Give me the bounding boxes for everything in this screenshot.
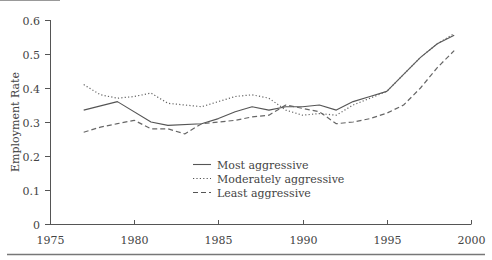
x-tick-label: 1995 — [374, 234, 402, 247]
legend-label: Least aggressive — [217, 187, 311, 200]
x-tick-label: 1990 — [290, 234, 318, 247]
y-tick-label: 0.1 — [23, 185, 41, 198]
y-tick-label: 0 — [33, 219, 40, 232]
y-axis: 00.10.20.30.40.50.6 — [23, 15, 51, 232]
series-line-moderately-aggressive — [84, 34, 455, 116]
x-tick-label: 2000 — [458, 234, 486, 247]
y-tick-label: 0.3 — [23, 117, 41, 130]
y-tick-label: 0.4 — [23, 83, 41, 96]
x-tick-label: 1975 — [37, 234, 65, 247]
legend-label: Moderately aggressive — [217, 173, 344, 186]
series-line-least-aggressive — [84, 51, 455, 134]
x-axis: 197519801985199019952000 — [37, 220, 486, 247]
series-lines — [84, 34, 455, 134]
series-line-most-aggressive — [84, 35, 455, 125]
legend-label: Most aggressive — [217, 159, 308, 172]
y-tick-label: 0.2 — [23, 151, 41, 164]
employment-rate-chart: 00.10.20.30.40.50.6 19751980198519901995… — [0, 0, 492, 260]
x-tick-label: 1980 — [121, 234, 149, 247]
x-tick-label: 1985 — [205, 234, 233, 247]
legend: Most aggressiveModerately aggressiveLeas… — [193, 159, 344, 200]
y-tick-label: 0.5 — [23, 49, 41, 62]
y-axis-title: Employment Rate — [9, 72, 22, 172]
y-tick-label: 0.6 — [23, 15, 41, 28]
